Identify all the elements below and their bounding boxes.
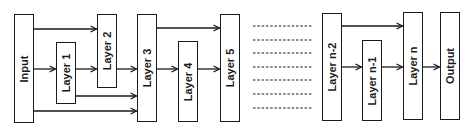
node-label: Layer 5	[224, 49, 236, 88]
node-label: Layer n-1	[366, 56, 378, 105]
node-label: Layer 4	[182, 62, 194, 101]
node-layern: Layer n	[403, 12, 423, 120]
node-layer4: Layer 4	[178, 41, 198, 122]
node-label: Layer n	[407, 46, 419, 85]
node-layer3: Layer 3	[137, 14, 157, 122]
node-layer1: Layer 1	[56, 42, 76, 104]
node-label: Layer n-2	[326, 43, 338, 92]
network-diagram: InputLayer 1Layer 2Layer 3Layer 4Layer 5…	[0, 0, 468, 132]
node-layer2: Layer 2	[97, 14, 117, 88]
node-label: Output	[444, 48, 456, 84]
node-output: Output	[440, 12, 460, 120]
node-input: Input	[14, 14, 34, 123]
node-layern2: Layer n-2	[322, 13, 342, 121]
node-label: Layer 2	[101, 32, 113, 71]
node-label: Layer 3	[141, 49, 153, 88]
node-label: Input	[18, 55, 30, 82]
node-label: Layer 1	[60, 54, 72, 93]
node-layer5: Layer 5	[220, 14, 240, 122]
node-layern1: Layer n-1	[362, 40, 382, 121]
